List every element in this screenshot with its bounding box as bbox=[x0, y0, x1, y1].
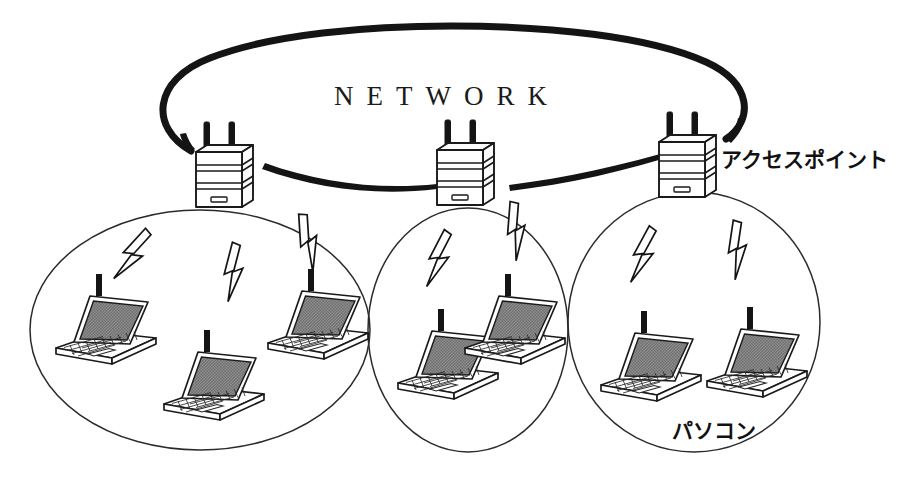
access-points bbox=[196, 112, 716, 207]
laptop-antenna bbox=[641, 311, 647, 333]
laptop-antenna bbox=[438, 309, 444, 331]
laptop-antenna bbox=[96, 274, 102, 296]
client-laptop-3[interactable] bbox=[268, 269, 368, 359]
laptop-antenna bbox=[747, 307, 753, 329]
laptop-antenna bbox=[204, 330, 210, 352]
wireless-link-1 bbox=[112, 224, 153, 286]
diagram-canvas: NETWORK bbox=[0, 0, 905, 482]
network-cloud: NETWORK bbox=[163, 26, 744, 151]
client-computers bbox=[56, 269, 807, 420]
wireless-link-5 bbox=[500, 199, 533, 261]
coverage-cell-right bbox=[568, 192, 820, 452]
backbone-link-middle-right bbox=[509, 148, 681, 191]
client-laptop-7[interactable] bbox=[707, 307, 807, 397]
wireless-links bbox=[112, 199, 752, 301]
wireless-link-3 bbox=[289, 211, 329, 273]
access-point-left[interactable] bbox=[196, 122, 253, 207]
laptop-antenna bbox=[308, 269, 314, 291]
client-laptop-2[interactable] bbox=[164, 330, 264, 420]
client-laptop-6[interactable] bbox=[601, 311, 701, 401]
access-point-right[interactable] bbox=[659, 112, 716, 197]
wireless-link-4 bbox=[425, 228, 453, 289]
network-label: NETWORK bbox=[334, 81, 560, 111]
wireless-link-2 bbox=[222, 242, 245, 302]
network-oval-right-tip bbox=[726, 118, 744, 143]
client-laptop-1[interactable] bbox=[56, 274, 156, 364]
network-diagram: NETWORK bbox=[0, 0, 905, 482]
backbone-link-left-middle bbox=[262, 163, 437, 192]
wireless-link-7 bbox=[723, 219, 752, 280]
laptop-antenna bbox=[505, 274, 511, 296]
access-point-label: アクセスポイント bbox=[721, 148, 888, 172]
wireless-link-6 bbox=[629, 224, 658, 285]
personal-computer-label: パソコン bbox=[672, 419, 756, 443]
client-laptop-5[interactable] bbox=[465, 274, 565, 364]
access-point-middle[interactable] bbox=[437, 120, 494, 205]
